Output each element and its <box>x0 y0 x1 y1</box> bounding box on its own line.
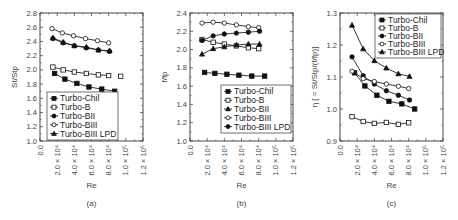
data-point <box>211 34 215 38</box>
data-point <box>396 122 400 126</box>
data-point <box>256 46 260 50</box>
y-tick-label: 2.0 <box>177 45 187 54</box>
y-tick-label: 1.2 <box>327 41 337 50</box>
data-point <box>222 32 226 36</box>
data-point <box>384 82 388 86</box>
data-point <box>71 34 75 38</box>
legend-entry: Turbo-BIII LPD <box>234 122 290 132</box>
y-tick-label: 2.2 <box>27 51 37 60</box>
data-point <box>349 23 354 28</box>
data-point <box>400 102 404 106</box>
data-point <box>75 81 79 85</box>
data-point <box>118 74 122 78</box>
data-point <box>211 20 215 24</box>
chart-panel-a: 1.01.21.41.61.82.02.22.42.62.80.02.0 × 1… <box>10 9 148 208</box>
legend-marker <box>226 98 230 102</box>
y-tick-label: 1.8 <box>27 80 37 89</box>
legend-entry: Turbo-BIII LPD <box>388 47 444 57</box>
legend: Turbo-ChilTurbo-BTurbo-BIITurbo-BIIITurb… <box>47 92 118 140</box>
data-point <box>63 77 67 81</box>
data-point <box>106 41 110 45</box>
x-tick-label: 6.0 × 10⁴ <box>237 145 246 176</box>
chart-panel-b: 1.01.21.41.61.82.02.22.40.02.0 × 10⁴4.0 … <box>160 9 298 208</box>
data-point <box>396 93 400 97</box>
data-point <box>412 107 416 111</box>
x-tick-label: 0.0 <box>186 145 195 155</box>
x-tick-label: 4.0 × 10⁴ <box>220 145 229 176</box>
y-axis-label: St/Stp <box>10 66 19 88</box>
x-tick-label: 1.2 × 10⁵ <box>439 145 448 175</box>
x-tick-label: 1.2 × 10⁵ <box>139 145 148 175</box>
data-point <box>87 85 91 89</box>
x-tick-label: 2.0 × 10⁴ <box>53 145 62 176</box>
data-point <box>372 121 376 125</box>
data-point <box>106 73 110 77</box>
panel-label: (b) <box>237 199 247 208</box>
y-tick-label: 2.0 <box>27 65 37 74</box>
legend: Turbo-ChilTurbo-BTurbo-BIITurbo-BIIITurb… <box>221 85 291 133</box>
x-tick-label: 0.0 <box>336 145 345 155</box>
data-point <box>234 31 238 35</box>
y-tick-label: 1.0 <box>177 137 187 146</box>
data-point <box>257 29 261 33</box>
legend-marker <box>52 105 56 109</box>
legend: Turbo-ChilTurbo-BTurbo-BIITurbo-BIIITurb… <box>375 14 444 58</box>
y-axis-label: f/fp <box>160 71 169 83</box>
data-point <box>83 36 87 40</box>
data-point <box>225 72 229 76</box>
data-point <box>234 23 238 27</box>
x-tick-label: 8.0 × 10⁴ <box>404 145 413 176</box>
figure: 1.01.21.41.61.82.02.22.42.62.80.02.0 × 1… <box>0 0 458 220</box>
data-point <box>262 74 266 78</box>
data-point <box>202 70 206 74</box>
y-tick-label: 1.2 <box>27 122 37 131</box>
data-point <box>396 84 400 88</box>
y-tick-label: 1.6 <box>27 94 37 103</box>
legend-marker <box>380 42 384 46</box>
data-point <box>213 71 217 75</box>
y-tick-label: 1.4 <box>177 100 187 109</box>
data-point <box>200 21 204 25</box>
panel-label: (c) <box>387 199 397 208</box>
y-tick-label: 1.3 <box>327 9 337 18</box>
legend-marker <box>52 123 56 127</box>
data-point <box>61 68 65 72</box>
panel-label: (a) <box>87 199 97 208</box>
data-point <box>200 38 204 42</box>
data-point <box>384 120 388 124</box>
data-point <box>406 121 410 125</box>
data-point <box>222 21 226 25</box>
data-point <box>387 99 391 103</box>
series-line <box>53 39 110 52</box>
legend-marker <box>380 26 384 30</box>
y-tick-label: 1.2 <box>177 118 187 127</box>
y-axis-label: η [ = St/Stp/(f/fp)] <box>310 47 319 108</box>
x-tick-label: 6.0 × 10⁴ <box>387 145 396 176</box>
x-tick-label: 0.0 <box>36 145 45 155</box>
data-point <box>72 70 76 74</box>
data-point <box>396 71 401 76</box>
data-point <box>211 40 215 44</box>
data-point <box>51 65 55 69</box>
legend-marker <box>380 18 384 22</box>
data-point <box>60 31 64 35</box>
x-tick-label: 6.0 × 10⁴ <box>87 145 96 176</box>
legend-marker <box>226 116 230 120</box>
y-tick-label: 1.8 <box>177 63 187 72</box>
x-tick-label: 2.0 × 10⁴ <box>353 145 362 176</box>
data-point <box>250 74 254 78</box>
y-tick-label: 1.6 <box>177 82 187 91</box>
data-point <box>50 26 54 30</box>
data-point <box>246 25 250 29</box>
x-tick-label: 1.0 × 10⁵ <box>271 145 280 175</box>
data-point <box>246 30 250 34</box>
data-point <box>361 46 366 51</box>
x-tick-label: 8.0 × 10⁴ <box>254 145 263 176</box>
legend-marker <box>52 114 56 118</box>
y-tick-label: 2.8 <box>27 9 37 18</box>
x-tick-label: 1.0 × 10⁵ <box>421 145 430 175</box>
y-tick-label: 1.4 <box>27 108 37 117</box>
x-axis-label: Re <box>236 181 247 190</box>
legend-marker <box>226 125 230 129</box>
data-point <box>52 71 56 75</box>
